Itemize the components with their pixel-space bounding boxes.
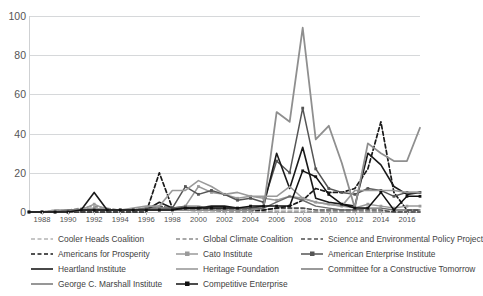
legend-item[interactable]: Heartland Institute (30, 264, 126, 274)
legend-label: Global Climate Coalition (203, 235, 293, 243)
legend-label: Cato Institute (203, 250, 252, 258)
series-committee-for-a-constructive-tomorrow (29, 28, 420, 212)
legend-item[interactable]: Americans for Prosperity (30, 249, 150, 259)
y-tick-label: 20 (14, 167, 26, 179)
x-tick-label: 2016 (399, 215, 416, 224)
plot-area (29, 16, 420, 212)
x-tick-label: 1996 (138, 215, 155, 224)
legend-item[interactable]: George C. Marshall Institute (30, 279, 162, 289)
series-americans-for-prosperity (29, 122, 420, 212)
legend-line-icon (30, 279, 54, 289)
x-tick-label: 2000 (190, 215, 207, 224)
legend-line-icon (175, 234, 199, 244)
x-tick-label: 2012 (346, 215, 363, 224)
legend-label: George C. Marshall Institute (58, 280, 162, 288)
legend-line-icon (175, 249, 199, 259)
legend-label: Cooler Heads Coalition (58, 235, 144, 243)
y-tick-label: 60 (14, 88, 26, 100)
legend-item[interactable]: Science and Environmental Policy Project (300, 234, 483, 244)
x-axis-labels: 1988199019921994199619982000200220042006… (29, 215, 420, 229)
legend-label: Heritage Foundation (203, 265, 279, 273)
legend-item[interactable]: Cato Institute (175, 249, 252, 259)
legend-line-icon (300, 249, 324, 259)
legend-line-icon (30, 249, 54, 259)
x-tick-label: 1998 (164, 215, 181, 224)
chart-legend: Cooler Heads CoalitionGlobal Climate Coa… (30, 234, 428, 294)
x-tick-label: 1994 (112, 215, 129, 224)
legend-label: Committee for a Constructive Tomorrow (328, 265, 475, 273)
legend-item[interactable]: Committee for a Constructive Tomorrow (300, 264, 475, 274)
x-tick-label: 2008 (294, 215, 311, 224)
legend-line-icon (30, 264, 54, 274)
series-lines (29, 16, 420, 212)
legend-item[interactable]: Cooler Heads Coalition (30, 234, 144, 244)
legend-label: American Enterprise Institute (328, 250, 436, 258)
x-tick-label: 1990 (60, 215, 77, 224)
x-tick-label: 2006 (268, 215, 285, 224)
x-tick-label: 2004 (242, 215, 259, 224)
legend-label: Science and Environmental Policy Project (328, 235, 483, 243)
x-tick-label: 2010 (320, 215, 337, 224)
legend-item[interactable]: Competitive Enterprise (175, 279, 288, 289)
legend-label: Competitive Enterprise (203, 280, 288, 288)
legend-label: Heartland Institute (58, 265, 126, 273)
legend-line-icon (300, 264, 324, 274)
legend-line-icon (175, 264, 199, 274)
x-tick-label: 1992 (86, 215, 103, 224)
y-axis-labels: 020406080100 (0, 16, 26, 212)
x-tick-label: 1988 (34, 215, 51, 224)
legend-item[interactable]: Heritage Foundation (175, 264, 279, 274)
legend-item[interactable]: American Enterprise Institute (300, 249, 436, 259)
legend-line-icon (175, 279, 199, 289)
legend-label: Americans for Prosperity (58, 250, 150, 258)
y-tick-label: 80 (14, 49, 26, 61)
y-tick-label: 0 (20, 206, 26, 218)
x-tick-label: 2002 (216, 215, 233, 224)
legend-item[interactable]: Global Climate Coalition (175, 234, 293, 244)
y-tick-label: 40 (14, 128, 26, 140)
y-tick-label: 100 (8, 10, 26, 22)
legend-line-icon (300, 234, 324, 244)
legend-line-icon (30, 234, 54, 244)
series-american-enterprise-institute (28, 107, 422, 214)
x-tick-label: 2014 (372, 215, 389, 224)
